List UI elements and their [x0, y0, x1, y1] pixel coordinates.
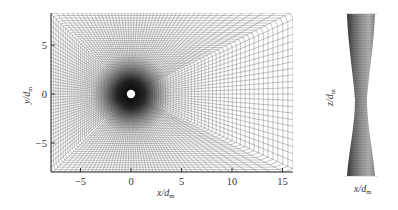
- figure: −5051015 50−5 x/dm y/dm z/dm x/dm: [0, 0, 398, 210]
- cylinder-3d-panel: z/dm x/dm: [324, 14, 378, 196]
- x-tick-label: 10: [227, 176, 238, 187]
- y-tick-label: 5: [42, 40, 47, 51]
- y-axis-label: y/dm: [21, 87, 33, 105]
- x-tick-label: 15: [277, 176, 288, 187]
- x-tick-label: −5: [75, 176, 86, 187]
- cylinder-body: [127, 90, 135, 98]
- x-tick-label: 0: [128, 176, 133, 187]
- y-tick-label: −5: [36, 138, 47, 149]
- x-tick-label: 5: [179, 176, 184, 187]
- x-axis-label-3d: x/dm: [353, 183, 371, 195]
- z-axis-label: z/dm: [324, 89, 336, 107]
- x-axis-label: x/dm: [156, 187, 174, 199]
- y-tick-label: 0: [42, 89, 47, 100]
- mesh-panel: −5051015 50−5 x/dm y/dm: [21, 13, 293, 199]
